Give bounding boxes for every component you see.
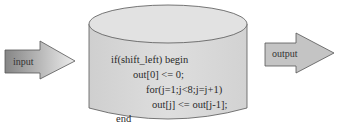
- code-line-1: if(shift_left) begin: [111, 54, 189, 66]
- code-line-3: for(j=1;j<8;j=j+1): [146, 84, 223, 96]
- logic-cylinder: if(shift_left) begin out[0] <= 0; for(j=…: [89, 5, 247, 124]
- code-line-2: out[0] <= 0;: [133, 69, 184, 80]
- output-arrow: output: [265, 33, 334, 73]
- code-line-4: out[j] <= out[j-1];: [152, 99, 227, 110]
- code-line-5: end: [116, 113, 132, 124]
- cylinder-top: [89, 5, 247, 43]
- input-label: input: [13, 56, 34, 67]
- input-arrow: input: [5, 41, 75, 79]
- output-label: output: [272, 48, 298, 59]
- diagram-canvas: input if(shift_left) begin out[0] <= 0; …: [0, 0, 337, 131]
